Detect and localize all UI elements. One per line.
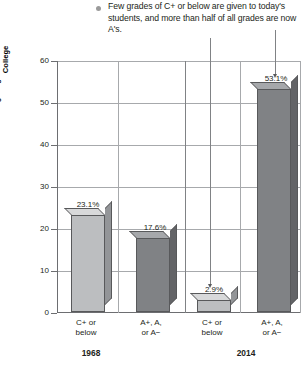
group-label-2014: 2014	[211, 348, 281, 358]
annotation-callout: Few grades of C+ or below are given to t…	[96, 1, 301, 36]
category-label-2014-a-grades: A+, A, or A−	[244, 318, 300, 338]
category-label-line2: or A−	[123, 328, 179, 338]
bar-top	[64, 208, 105, 215]
ytick-label-60: 60	[27, 56, 49, 65]
vertical-separator-1	[118, 61, 119, 313]
category-label-line1: A+, A,	[123, 318, 179, 328]
leader-line-to-2014-a-grades	[275, 30, 276, 75]
annotation-text: Few grades of C+ or below are given to t…	[108, 1, 301, 36]
ytick-mark-20	[51, 229, 57, 230]
category-label-line2: below	[184, 328, 240, 338]
leader-arrow	[208, 284, 212, 288]
bar-front	[197, 300, 231, 312]
bar-side	[291, 75, 298, 305]
bar-front	[136, 238, 170, 312]
ytick-mark-60	[51, 61, 57, 62]
leader-line-to-2014-c-or-below	[210, 38, 211, 285]
ytick-mark-30	[51, 187, 57, 188]
ytick-mark-10	[51, 271, 57, 272]
ytick-mark-40	[51, 145, 57, 146]
ytick-label-40: 40	[27, 140, 49, 149]
ytick-label-50: 50	[27, 98, 49, 107]
ytick-label-10: 10	[27, 266, 49, 275]
ytick-label-0: 0	[27, 308, 49, 317]
gridline-60	[58, 61, 301, 62]
bullet-dot-icon	[96, 6, 101, 11]
bar-side	[105, 201, 112, 305]
bar-top	[129, 231, 170, 238]
category-label-2014-c-or-below: C+ or below	[184, 318, 240, 338]
bar-front	[257, 89, 291, 312]
ytick-label-20: 20	[27, 224, 49, 233]
bar-1968-c-or-below	[71, 215, 105, 312]
y-axis-title: Distribution of Average High School Grad…	[0, 0, 10, 184]
data-label-23-1: 23.1%	[68, 200, 108, 209]
bar-2014-a-grades	[257, 89, 291, 312]
category-label-1968-c-or-below: C+ or below	[58, 318, 114, 338]
bar-1968-a-grades	[136, 238, 170, 312]
data-label-17-6: 17.6%	[135, 223, 175, 232]
bar-top	[190, 293, 231, 300]
ytick-mark-0	[51, 313, 57, 314]
bar-2014-c-or-below	[197, 300, 231, 312]
bar-side	[170, 224, 177, 305]
category-label-line2: or A−	[244, 328, 300, 338]
data-label-2-9: 2.9%	[194, 285, 234, 294]
ytick-mark-50	[51, 103, 57, 104]
category-label-1968-a-grades: A+, A, or A−	[123, 318, 179, 338]
category-label-line2: below	[58, 328, 114, 338]
category-label-line1: C+ or	[58, 318, 114, 328]
bar-front	[71, 215, 105, 312]
leader-arrow	[273, 74, 277, 78]
group-label-1968: 1968	[56, 348, 126, 358]
plot-right-edge	[300, 61, 301, 313]
category-label-line1: C+ or	[184, 318, 240, 328]
vertical-separator-2	[240, 61, 241, 313]
plot-area: 60 50 40 30 20 10 0 23.1% 17.6% 2.9% 53.…	[57, 61, 300, 313]
ytick-label-30: 30	[27, 182, 49, 191]
bar-top	[250, 82, 291, 89]
category-label-line1: A+, A,	[244, 318, 300, 328]
group-divider	[185, 61, 186, 313]
